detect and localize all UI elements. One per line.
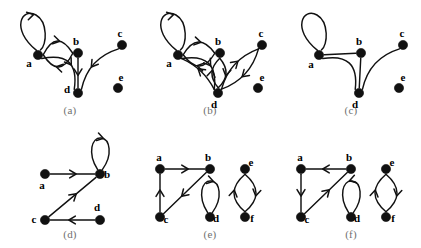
vertex-f-f: f xyxy=(381,212,395,224)
vertex-label-d-d: d xyxy=(94,201,100,213)
edge-a-a-b xyxy=(43,36,73,55)
vertex-a-c: c xyxy=(117,27,126,50)
vertex-label-e-e: e xyxy=(249,156,254,168)
vertex-label-c-c: c xyxy=(400,27,405,39)
vertex-label-a-a: a xyxy=(26,57,32,69)
edge-f-e-f xyxy=(386,174,402,212)
vertex-label-b-c: c xyxy=(259,27,264,39)
edge-b-d-b xyxy=(207,58,220,88)
edge-e-f-e xyxy=(229,174,245,212)
vertex-a-b: b xyxy=(73,35,83,58)
vertex-label-b-e: e xyxy=(260,71,265,83)
edge-e-e-f xyxy=(245,174,261,212)
edge-b-a-b xyxy=(183,37,215,55)
vertex-label-d-b: b xyxy=(104,168,110,180)
graph-panel-a: abcde(a) xyxy=(0,0,140,124)
graph-figure: abcde(a)abcde(b)abcde(c)abcd(d)abcdef(e)… xyxy=(0,0,421,248)
vertex-c-b: b xyxy=(356,35,366,58)
panel-caption-c: (c) xyxy=(281,104,421,116)
vertex-label-f-e: e xyxy=(390,156,395,168)
vertices-c: abcde xyxy=(308,27,407,110)
edges-a xyxy=(21,12,119,89)
vertex-f-d: d xyxy=(346,212,360,224)
vertex-e-b: b xyxy=(205,151,215,174)
vertex-label-e-c: c xyxy=(164,213,169,225)
vertex-e-f: f xyxy=(240,212,254,224)
vertex-label-e-f: f xyxy=(250,212,254,224)
vertex-d-d: d xyxy=(94,201,105,225)
edge-c-a-a xyxy=(302,13,326,50)
vertex-f-e: e xyxy=(381,156,394,174)
edge-c-c-d xyxy=(363,49,400,89)
edge-c-a-b xyxy=(324,53,356,55)
vertex-label-a-b: b xyxy=(73,35,79,47)
edge-c-b-d xyxy=(359,58,360,88)
vertex-label-a-c: c xyxy=(118,27,123,39)
edge-e-d-d xyxy=(202,176,220,212)
edge-e-b-c xyxy=(164,173,207,214)
panel-caption-e: (e) xyxy=(140,228,280,240)
vertices-f: abcdef xyxy=(296,151,395,225)
vertex-b-c: c xyxy=(257,27,266,50)
edge-b-d-c xyxy=(222,49,259,89)
edge-b-a-a xyxy=(161,12,185,50)
vertex-label-f-b: b xyxy=(346,151,352,163)
vertex-f-c: c xyxy=(296,212,309,225)
vertices-b: abcde xyxy=(166,27,266,110)
edge-a-a-a xyxy=(21,12,45,50)
edge-c-a-d xyxy=(323,58,356,90)
vertices-e: abcdef xyxy=(155,151,254,225)
edge-f-f-e xyxy=(370,174,386,212)
graph-panel-b: abcde(b) xyxy=(140,0,280,124)
vertex-label-f-f: f xyxy=(391,212,395,224)
vertex-label-b-b: b xyxy=(215,35,221,47)
vertex-c-c: c xyxy=(398,27,407,50)
edge-e-a-b xyxy=(165,165,205,173)
vertex-label-f-a: a xyxy=(297,151,303,163)
edge-d-b-b xyxy=(92,133,110,169)
vertex-c-a: a xyxy=(308,50,323,70)
vertex-label-d-a: a xyxy=(39,179,45,191)
edge-f-a-c xyxy=(297,174,305,212)
vertex-b-a: a xyxy=(166,50,182,69)
vertex-b-b: b xyxy=(215,35,225,58)
vertex-e-d: d xyxy=(205,212,219,224)
vertex-e-e: e xyxy=(240,156,253,174)
vertex-label-c-e: e xyxy=(401,71,406,83)
vertex-b-e: e xyxy=(253,71,264,93)
vertex-label-e-d: d xyxy=(213,212,219,224)
edge-d-a-b xyxy=(50,170,95,178)
vertex-d-a: a xyxy=(39,169,49,191)
edge-f-d-d xyxy=(343,175,361,212)
vertex-label-e-b: b xyxy=(205,151,211,163)
vertex-label-f-c: c xyxy=(305,213,310,225)
vertex-e-c: c xyxy=(155,212,168,225)
graph-panel-f: abcdef(f) xyxy=(281,124,421,248)
vertex-c-e: e xyxy=(394,71,405,93)
vertex-label-e-a: a xyxy=(156,151,162,163)
graph-panel-c: abcde(c) xyxy=(281,0,421,124)
graph-panel-e: abcdef(e) xyxy=(140,124,280,248)
vertex-label-c-b: b xyxy=(356,35,362,47)
vertex-label-b-a: a xyxy=(166,57,172,69)
vertex-label-f-d: d xyxy=(354,212,360,224)
vertex-a-a: a xyxy=(26,50,42,69)
vertex-a-d: d xyxy=(64,83,83,98)
edge-d-d-c xyxy=(50,216,95,224)
edge-f-c-b xyxy=(305,173,348,214)
vertex-a-e: e xyxy=(113,71,123,93)
vertex-e-a: a xyxy=(155,151,164,174)
edge-b-c-d xyxy=(222,49,259,89)
edge-d-c-b xyxy=(49,177,96,216)
edge-e-c-a xyxy=(156,174,164,212)
vertex-label-c-a: a xyxy=(308,58,314,70)
edges-b xyxy=(161,12,259,89)
graph-panel-d: abcd(d) xyxy=(0,124,140,248)
vertex-d-c: c xyxy=(32,213,50,225)
vertices-a: abcde xyxy=(26,27,126,98)
edge-a-c-d xyxy=(82,49,119,89)
vertex-label-a-d: d xyxy=(64,83,70,95)
edge-f-b-a xyxy=(306,165,346,173)
vertex-f-b: b xyxy=(346,151,356,174)
vertex-label-d-c: c xyxy=(32,213,37,225)
